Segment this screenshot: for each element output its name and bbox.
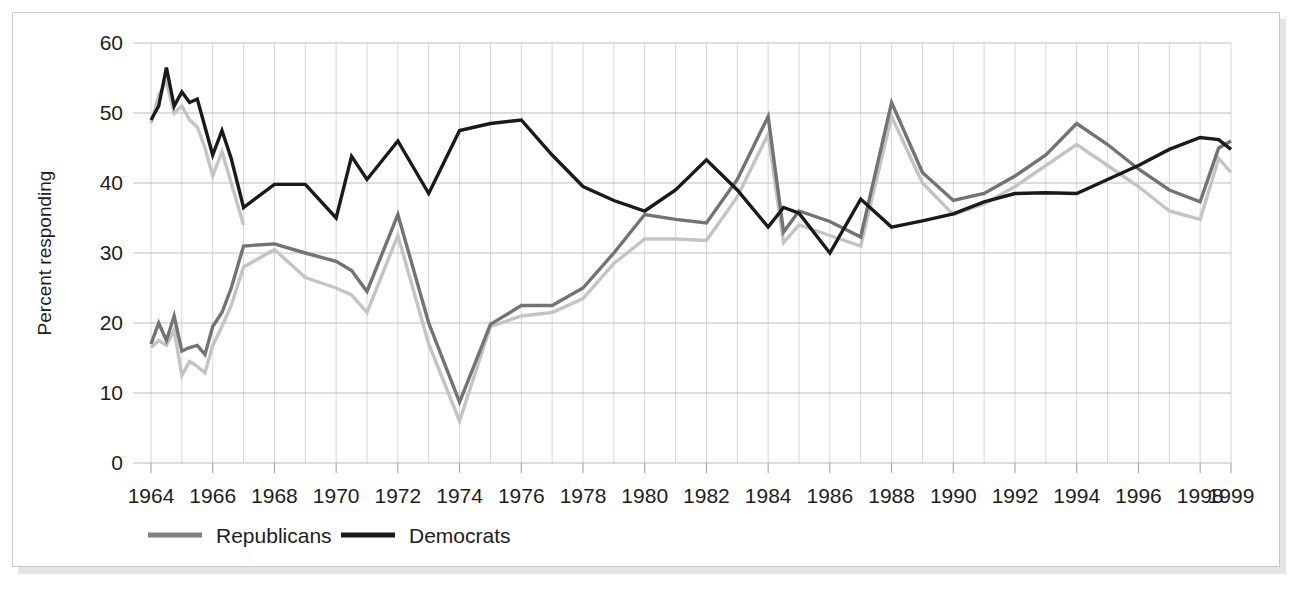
x-axis-tick-label: 1984 bbox=[745, 484, 792, 507]
series-line-republicans-light bbox=[151, 117, 1231, 422]
x-axis-tick-label: 1964 bbox=[128, 484, 175, 507]
x-axis-tick-label: 1966 bbox=[189, 484, 236, 507]
line-chart[interactable]: 0102030405060Percent responding196419661… bbox=[13, 13, 1281, 568]
x-axis-tick-label: 1968 bbox=[251, 484, 298, 507]
x-axis-tick-label: 1970 bbox=[313, 484, 360, 507]
y-axis-tick-label: 20 bbox=[100, 311, 123, 334]
x-axis-tick-label: 1982 bbox=[683, 484, 730, 507]
x-axis-tick-label: 1974 bbox=[436, 484, 483, 507]
x-axis-tick-label: 1972 bbox=[374, 484, 421, 507]
y-axis-tick-label: 0 bbox=[111, 451, 123, 474]
y-axis-tick-label: 10 bbox=[100, 381, 123, 404]
series-line-republicans-dark bbox=[151, 103, 1231, 403]
y-axis-title: Percent responding bbox=[34, 171, 55, 336]
x-axis-tick-label: 1999 bbox=[1208, 484, 1255, 507]
x-axis-tick-label: 1990 bbox=[930, 484, 977, 507]
x-axis-tick-label: 1986 bbox=[806, 484, 853, 507]
y-axis-tick-label: 40 bbox=[100, 171, 123, 194]
x-axis-tick-label: 1992 bbox=[992, 484, 1039, 507]
legend-label-republicans: Republicans bbox=[216, 524, 332, 547]
y-axis-tick-label: 50 bbox=[100, 101, 123, 124]
series-line-democrats bbox=[151, 68, 1231, 254]
chart-figure-frame: 0102030405060Percent responding196419661… bbox=[12, 12, 1280, 567]
legend-label-democrats: Democrats bbox=[409, 524, 511, 547]
x-axis-tick-label: 1994 bbox=[1053, 484, 1100, 507]
x-axis-tick-label: 1976 bbox=[498, 484, 545, 507]
y-axis-tick-label: 30 bbox=[100, 241, 123, 264]
y-axis-tick-label: 60 bbox=[100, 31, 123, 54]
x-axis-tick-label: 1978 bbox=[560, 484, 607, 507]
x-axis-tick-label: 1980 bbox=[621, 484, 668, 507]
x-axis-tick-label: 1988 bbox=[868, 484, 915, 507]
x-axis-tick-label: 1996 bbox=[1115, 484, 1162, 507]
